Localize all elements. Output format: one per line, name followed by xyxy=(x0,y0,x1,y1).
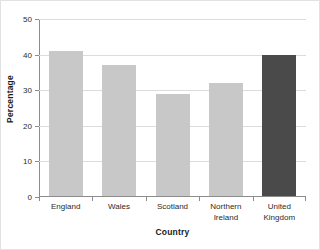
y-tick-mark xyxy=(35,161,39,162)
x-category-label-line: Ireland xyxy=(199,213,252,224)
gridline xyxy=(39,19,306,20)
y-axis-title: Percentage xyxy=(1,1,19,197)
x-tick-mark xyxy=(253,197,254,201)
y-tick-mark xyxy=(35,126,39,127)
x-category-label: England xyxy=(39,202,92,213)
x-category-label: UnitedKingdom xyxy=(253,202,306,223)
x-axis-title: Country xyxy=(39,227,306,237)
y-axis-line xyxy=(39,19,40,197)
y-tick-label: 10 xyxy=(23,157,32,166)
y-tick-mark xyxy=(35,55,39,56)
x-category-label-line: Wales xyxy=(92,202,145,213)
bar-northern-ireland xyxy=(209,83,243,196)
x-category-label: NorthernIreland xyxy=(199,202,252,223)
y-tick-label: 30 xyxy=(23,86,32,95)
x-category-label: Scotland xyxy=(146,202,199,213)
bar-united-kingdom xyxy=(262,55,296,196)
x-tick-mark xyxy=(39,197,40,201)
y-tick-mark xyxy=(35,19,39,20)
x-tick-mark xyxy=(305,197,306,201)
bar-england xyxy=(49,51,83,196)
y-axis-title-text: Percentage xyxy=(5,75,15,123)
x-category-label-line: England xyxy=(39,202,92,213)
x-tick-mark xyxy=(146,197,147,201)
y-tick-label: 0 xyxy=(28,193,32,202)
x-category-label-line: Scotland xyxy=(146,202,199,213)
y-tick-label: 40 xyxy=(23,50,32,59)
bar-scotland xyxy=(156,94,190,196)
y-tick-label: 50 xyxy=(23,15,32,24)
x-category-label-line: United xyxy=(253,202,306,213)
x-category-label-line: Northern xyxy=(199,202,252,213)
x-tick-mark xyxy=(92,197,93,201)
x-category-label-line: Kingdom xyxy=(253,213,306,224)
x-axis-line xyxy=(39,196,306,197)
x-category-label: Wales xyxy=(92,202,145,213)
bar-chart-figure: Percentage 01020304050 EnglandWalesScotl… xyxy=(0,0,320,250)
bar-wales xyxy=(102,65,136,196)
y-tick-label: 20 xyxy=(23,121,32,130)
plot-area: 01020304050 xyxy=(39,19,306,197)
y-tick-mark xyxy=(35,90,39,91)
x-tick-mark xyxy=(199,197,200,201)
